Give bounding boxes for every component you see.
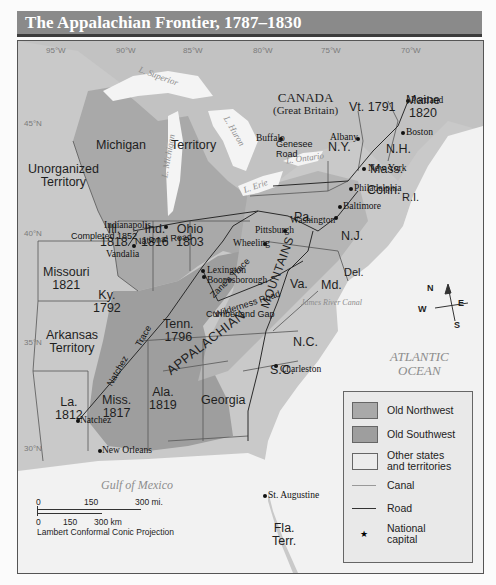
canal-line-icon — [352, 485, 376, 486]
florida-label: Fla.Terr. — [272, 522, 296, 548]
lon-label: 90°W — [116, 46, 136, 55]
city-vandalia: Vandalia — [106, 249, 139, 259]
compass-e: E — [458, 297, 464, 310]
vermont-label: Vt. 1791 — [349, 101, 396, 114]
lon-label: 85°W — [183, 46, 203, 55]
city-philadelphia: Philadelphia — [354, 183, 402, 193]
michigan-label: Michigan — [96, 139, 146, 152]
compass-w: W — [418, 303, 427, 316]
ocean-label-2: OCEAN — [398, 363, 441, 379]
gulf-label: Gulf of Mexico — [101, 478, 173, 493]
map-title-bar: The Appalachian Frontier, 1787–1830 — [17, 11, 482, 37]
compass-n: N — [427, 282, 434, 295]
projection-label: Lambert Conformal Conic Projection — [37, 527, 174, 537]
virginia-label: Va. — [290, 278, 308, 291]
legend-road: Road — [352, 503, 412, 514]
lon-label: 80°W — [253, 46, 273, 55]
completed-1852-label: Completed 1852 — [71, 231, 137, 241]
scale-mi-line — [37, 509, 141, 510]
swatch-old-southwest — [352, 426, 378, 443]
legend-canal: Canal — [352, 480, 414, 491]
canada-label: CANADA (Great Britain) — [273, 91, 338, 117]
georgia-label: Georgia — [201, 394, 245, 407]
lon-label: 95°W — [46, 46, 66, 55]
city-indianapolis: Indianapolis — [104, 220, 151, 230]
arkansas-label: ArkansasTerritory — [46, 329, 98, 355]
scale-km-line — [37, 513, 102, 514]
star-icon: ★ — [352, 529, 376, 539]
city-pittsburgh: Pittsburgh — [255, 225, 294, 235]
swatch-other-states — [352, 453, 378, 470]
lon-label: 75°W — [321, 46, 341, 55]
ny-label: N.Y. — [328, 141, 351, 154]
city-new-orleans: New Orleans — [102, 445, 152, 455]
nj-label: N.J. — [341, 230, 363, 243]
city-boston: Boston — [406, 127, 433, 137]
legend-old-southwest: Old Southwest — [352, 426, 455, 443]
road-line-icon — [352, 508, 376, 509]
compass-s: S — [454, 319, 460, 332]
alabama-label: Ala.1819 — [149, 386, 177, 412]
maryland-label: Md. — [321, 279, 342, 292]
nc-label: N.C. — [293, 336, 318, 349]
city-natchez: Natchez — [80, 415, 111, 425]
swatch-old-northwest — [352, 402, 378, 419]
legend-other-states: Other statesand territories — [352, 450, 451, 472]
cumberland-gap-label: Cumberland Gap — [206, 309, 275, 319]
lat-label: 45°N — [24, 119, 42, 128]
kentucky-label: Ky.1792 — [93, 289, 121, 315]
lon-label: 70°W — [401, 46, 421, 55]
city-baltimore: Baltimore — [343, 201, 381, 211]
louisiana-label: La.1812 — [55, 396, 83, 422]
james-river-canal-label: James River Canal — [301, 298, 362, 307]
unorganized-territory-label: UnorganizedTerritory — [28, 163, 99, 189]
city-washington: Washington — [290, 215, 335, 225]
nh-label: N.H. — [386, 143, 411, 156]
lat-label: 30°N — [24, 444, 42, 453]
lat-label: 35°N — [24, 338, 42, 347]
city-portland: Portland — [411, 95, 443, 105]
lat-label: 40°N — [24, 229, 42, 238]
map-legend: Old Northwest Old Southwest Other states… — [343, 391, 473, 563]
missouri-label: Missouri1821 — [43, 266, 90, 292]
michigan-territory-label: Territory — [171, 139, 216, 152]
genesee-road-label: GeneseeRoad — [276, 139, 313, 159]
legend-national-capital: ★ Nationalcapital — [352, 523, 426, 545]
map-panel: 95°W 90°W 85°W 80°W 75°W 70°W 45°N 40°N … — [17, 40, 484, 574]
delaware-label: Del. — [344, 266, 364, 279]
city-charleston: Charleston — [280, 364, 321, 374]
ri-label: R.I. — [402, 191, 419, 204]
city-st-augustine: St. Augustine — [268, 490, 319, 500]
city-new-york: New York — [368, 163, 407, 173]
map-title: The Appalachian Frontier, 1787–1830 — [25, 13, 301, 33]
city-albany: Albany — [330, 132, 358, 142]
tennessee-label: Tenn.1796 — [163, 318, 194, 344]
city-wheeling: Wheeling — [233, 238, 270, 248]
legend-old-northwest: Old Northwest — [352, 402, 454, 419]
